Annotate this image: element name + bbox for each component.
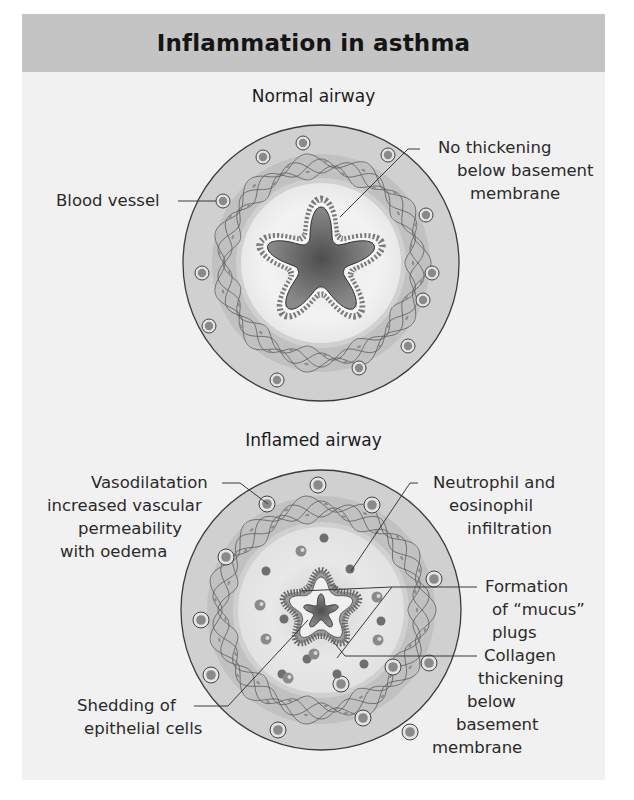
neutrophil-cell <box>377 617 386 626</box>
neutrophil-cell <box>333 670 342 679</box>
label-vasodilatation-3: permeability <box>78 518 182 540</box>
eosinophil-granule <box>377 594 381 598</box>
eosinophil-granule <box>260 602 264 606</box>
eosinophil-granule <box>314 651 318 655</box>
label-shedding-1: Shedding of <box>77 695 176 717</box>
eosinophil-granule <box>266 636 270 640</box>
blood-vessel-core <box>336 679 346 689</box>
label-neutrophil-1: Neutrophil and <box>433 472 555 494</box>
label-mucus-2: of “mucus” <box>492 599 585 621</box>
blood-vessel-core <box>422 211 430 219</box>
blood-vessel-core <box>367 500 377 510</box>
label-neutrophil-3: infiltration <box>467 518 552 540</box>
muscle-nucleus <box>416 608 418 612</box>
blood-vessel-core <box>196 615 206 625</box>
eosinophil-granule <box>288 675 292 679</box>
label-collagen-4: basement <box>456 714 538 736</box>
neutrophil-cell <box>262 567 271 576</box>
inflamed-airway <box>181 470 477 750</box>
blood-vessel-core <box>221 552 231 562</box>
blood-vessel-core <box>206 670 216 680</box>
blood-vessel-core <box>259 153 267 161</box>
eosinophil-granule <box>378 637 382 641</box>
blood-vessel-core <box>313 480 323 490</box>
label-collagen-3: below <box>467 691 516 713</box>
blood-vessel-core <box>384 151 392 159</box>
muscle-nucleus <box>412 261 414 265</box>
blood-vessel-core <box>205 322 213 330</box>
blood-vessel-core <box>273 376 281 384</box>
label-no-thickening-2: below basement <box>457 160 594 182</box>
label-mucus-3: plugs <box>492 622 537 644</box>
blood-vessel-core <box>429 574 439 584</box>
blood-vessel-core <box>273 725 283 735</box>
normal-airway <box>178 125 459 401</box>
label-no-thickening-1: No thickening <box>438 137 551 159</box>
neutrophil-cell <box>280 615 289 624</box>
label-neutrophil-2: eosinophil <box>449 495 533 517</box>
neutrophil-cell <box>320 534 329 543</box>
neutrophil-cell <box>346 565 355 574</box>
eosinophil-granule <box>301 548 305 552</box>
label-vasodilatation-1: Vasodilatation <box>91 472 208 494</box>
blood-vessel-core <box>219 197 227 205</box>
neutrophil-cell <box>360 660 369 669</box>
label-collagen-2: thickening <box>478 668 564 690</box>
blood-vessel-core <box>405 727 415 737</box>
label-no-thickening-3: membrane <box>470 183 560 205</box>
label-blood-vessel: Blood vessel <box>56 190 160 212</box>
label-shedding-2: epithelial cells <box>84 718 202 740</box>
blood-vessel-core <box>198 269 206 277</box>
label-vasodilatation-2: increased vascular <box>47 495 202 517</box>
blood-vessel-core <box>428 269 436 277</box>
blood-vessel-core <box>388 662 398 672</box>
blood-vessel-core <box>404 342 412 350</box>
blood-vessel-core <box>355 364 363 372</box>
blood-vessel-core <box>424 658 434 668</box>
label-mucus-1: Formation <box>485 576 568 598</box>
label-collagen-1: Collagen <box>484 645 556 667</box>
label-collagen-5: membrane <box>432 737 522 759</box>
blood-vessel-core <box>299 139 307 147</box>
label-vasodilatation-4: with oedema <box>60 541 167 563</box>
blood-vessel-core <box>358 713 368 723</box>
blood-vessel-core <box>419 296 427 304</box>
